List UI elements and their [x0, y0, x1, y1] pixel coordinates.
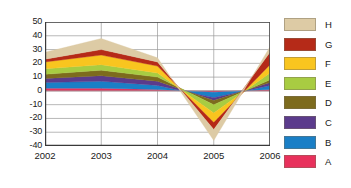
legend-swatch-D — [284, 96, 316, 109]
x-tick-label: 2006 — [259, 151, 280, 161]
legend-swatch-E — [284, 77, 316, 90]
legend-label-A: A — [325, 156, 331, 167]
y-tick-label: -30 — [16, 127, 42, 136]
legend-label-B: B — [325, 137, 331, 148]
legend-item-A[interactable]: A — [284, 155, 348, 169]
legend-item-F[interactable]: F — [284, 57, 348, 71]
legend-item-G[interactable]: G — [284, 38, 348, 52]
legend-swatch-C — [284, 116, 316, 129]
y-tick-label: -10 — [16, 100, 42, 109]
legend-label-G: G — [325, 39, 332, 50]
legend-item-E[interactable]: E — [284, 77, 348, 91]
y-tick-label: -40 — [16, 141, 42, 150]
legend-swatch-H — [284, 18, 316, 31]
stacked-area-chart: 50403020100-10-20-30-40 2002200320042005… — [0, 0, 351, 188]
x-tick-label: 2002 — [34, 151, 55, 161]
y-axis-labels: 50403020100-10-20-30-40 — [10, 22, 42, 146]
legend-label-C: C — [325, 117, 332, 128]
y-tick-label: 30 — [16, 45, 42, 54]
plot-svg — [45, 22, 270, 146]
legend-item-B[interactable]: B — [284, 136, 348, 150]
y-tick-label: 50 — [16, 17, 42, 26]
y-tick-label: -20 — [16, 113, 42, 122]
legend-label-F: F — [325, 58, 331, 69]
legend-swatch-G — [284, 38, 316, 51]
chart-legend: HGFEDCBA — [284, 18, 348, 180]
legend-label-D: D — [325, 97, 332, 108]
legend-swatch-A — [284, 155, 316, 168]
plot-area — [45, 22, 270, 146]
legend-label-E: E — [325, 78, 331, 89]
legend-swatch-B — [284, 136, 316, 149]
legend-swatch-F — [284, 57, 316, 70]
y-tick-label: 10 — [16, 72, 42, 81]
legend-item-H[interactable]: H — [284, 18, 348, 32]
x-tick-label: 2003 — [91, 151, 112, 161]
legend-item-C[interactable]: C — [284, 116, 348, 130]
y-tick-label: 20 — [16, 58, 42, 67]
x-tick-label: 2004 — [147, 151, 168, 161]
x-axis-labels: 20022003200420052006 — [45, 150, 270, 166]
y-tick-label: 0 — [16, 86, 42, 95]
legend-item-D[interactable]: D — [284, 96, 348, 110]
y-tick-label: 40 — [16, 31, 42, 40]
legend-label-H: H — [325, 19, 332, 30]
x-tick-label: 2005 — [203, 151, 224, 161]
